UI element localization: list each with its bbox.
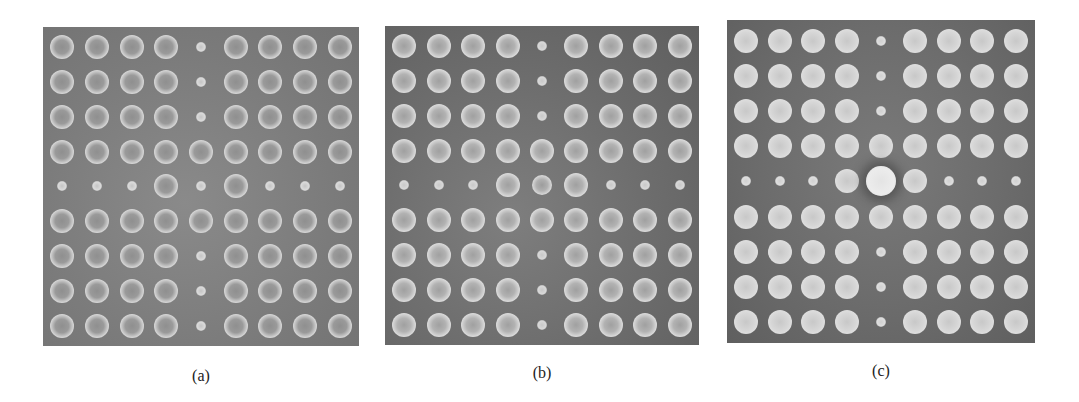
- lattice-cell: [149, 204, 184, 239]
- defect-rod: [57, 181, 67, 191]
- lattice-cell: [253, 30, 288, 65]
- rod: [599, 139, 623, 163]
- lattice-cell: [594, 203, 628, 238]
- rod: [734, 205, 758, 229]
- rod: [903, 99, 927, 123]
- rod: [599, 69, 623, 93]
- lattice-cell: [218, 30, 253, 65]
- rod: [801, 64, 825, 88]
- lattice-cell: [797, 305, 831, 340]
- rod: [801, 29, 825, 53]
- lattice-cell: [456, 203, 490, 238]
- lattice-cell: [456, 307, 490, 342]
- lattice-cell: [898, 58, 932, 93]
- rod: [85, 140, 109, 164]
- rod: [1004, 64, 1028, 88]
- lattice-cell: [965, 199, 999, 234]
- lattice-cell: [932, 93, 966, 128]
- rod: [392, 278, 416, 302]
- defect-rod: [196, 42, 206, 52]
- rod: [768, 29, 792, 53]
- rod: [633, 243, 657, 267]
- panel-c: (c): [727, 20, 1035, 392]
- rod: [328, 244, 352, 268]
- defect-rod: [675, 180, 685, 190]
- rod: [496, 208, 520, 232]
- defect-rod: [876, 106, 886, 116]
- defect-rod: [196, 321, 206, 331]
- rod: [564, 278, 588, 302]
- lattice-cell: [559, 168, 593, 203]
- rod: [50, 244, 74, 268]
- lattice-cell: [864, 23, 898, 58]
- rod: [869, 205, 893, 229]
- rod: [85, 105, 109, 129]
- rod: [835, 240, 859, 264]
- lattice-cell: [763, 93, 797, 128]
- lattice-cell: [387, 203, 421, 238]
- lattice-cell: [421, 168, 455, 203]
- lattice-cell: [797, 129, 831, 164]
- rod: [50, 140, 74, 164]
- defect-rod: [876, 282, 886, 292]
- rod: [599, 278, 623, 302]
- rod: [120, 314, 144, 338]
- rod: [154, 314, 178, 338]
- lattice-cell: [999, 164, 1033, 199]
- lattice-cell: [763, 270, 797, 305]
- lattice-cell: [456, 272, 490, 307]
- lattice-cell: [797, 58, 831, 93]
- rod: [835, 310, 859, 334]
- lattice-cell: [864, 199, 898, 234]
- defect-rod: [468, 180, 478, 190]
- lattice-cell: [932, 129, 966, 164]
- lattice-cell: [184, 204, 219, 239]
- lattice-cell: [45, 30, 80, 65]
- lattice-cell: [628, 64, 662, 99]
- lattice-cell: [490, 272, 524, 307]
- lattice-cell: [830, 23, 864, 58]
- rod: [633, 139, 657, 163]
- defect-rod: [92, 181, 102, 191]
- lattice-cell: [797, 270, 831, 305]
- rod: [599, 243, 623, 267]
- lattice-cell: [763, 23, 797, 58]
- lattice-cell: [663, 238, 697, 273]
- rod: [734, 310, 758, 334]
- rod: [461, 278, 485, 302]
- rod: [633, 69, 657, 93]
- defect-rod: [876, 317, 886, 327]
- rod: [768, 64, 792, 88]
- rod: [328, 209, 352, 233]
- rod: [903, 134, 927, 158]
- defect-rod: [944, 176, 954, 186]
- caption-a: (a): [43, 367, 359, 385]
- defect-rod: [1011, 176, 1021, 186]
- lattice-cell: [184, 134, 219, 169]
- lattice-cell: [387, 238, 421, 273]
- rod: [970, 64, 994, 88]
- rod: [903, 29, 927, 53]
- lattice-cell: [80, 169, 115, 204]
- rod: [50, 209, 74, 233]
- lattice-cell: [45, 65, 80, 100]
- rod: [461, 139, 485, 163]
- rod: [224, 70, 248, 94]
- lattice-cell: [421, 99, 455, 134]
- rod: [154, 105, 178, 129]
- lattice-cell: [999, 234, 1033, 269]
- defect-rod: [196, 112, 206, 122]
- rod: [392, 139, 416, 163]
- rod: [154, 209, 178, 233]
- lattice-cell: [421, 272, 455, 307]
- rod: [258, 105, 282, 129]
- lattice-cell: [387, 168, 421, 203]
- lattice-cell: [184, 273, 219, 308]
- rod: [937, 64, 961, 88]
- lattice-cell: [965, 93, 999, 128]
- lattice-cell: [288, 134, 323, 169]
- rod: [768, 275, 792, 299]
- rod: [734, 240, 758, 264]
- rod: [599, 313, 623, 337]
- lattice-cell: [80, 100, 115, 135]
